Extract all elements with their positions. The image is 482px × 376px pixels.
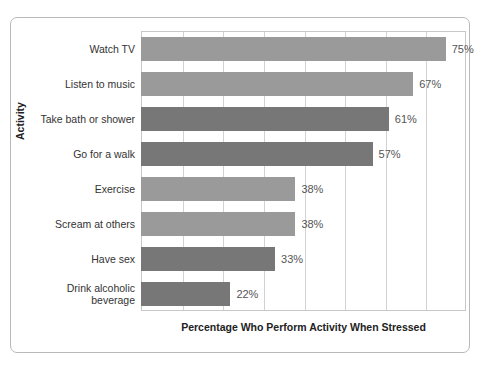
bars-container: 75%67%61%57%38%38%33%22% <box>141 31 466 311</box>
bar-value-label: 38% <box>295 212 323 236</box>
category-label: Go for a walk <box>30 148 135 160</box>
bar-row: 33% <box>141 241 466 276</box>
bar-value-label: 61% <box>389 107 417 131</box>
bar-value-label: 75% <box>446 37 474 61</box>
bar-value-label: 57% <box>373 142 401 166</box>
y-axis-title: Activity <box>14 102 26 140</box>
x-axis-title: Percentage Who Perform Activity When Str… <box>141 321 466 333</box>
bar-scream-at-others <box>141 212 295 236</box>
figure-page: 75%67%61%57%38%38%33%22% Watch TVListen … <box>0 0 482 376</box>
category-label: Listen to music <box>30 78 135 90</box>
bar-row: 22% <box>141 276 466 311</box>
bar-row: 38% <box>141 171 466 206</box>
category-labels: Watch TVListen to musicTake bath or show… <box>30 31 135 311</box>
category-label: Watch TV <box>30 43 135 55</box>
bar-row: 38% <box>141 206 466 241</box>
bar-row: 75% <box>141 31 466 66</box>
bar-value-label: 67% <box>413 72 441 96</box>
bar-watch-tv <box>141 37 446 61</box>
bar-have-sex <box>141 247 275 271</box>
category-label: Scream at others <box>30 218 135 230</box>
bar-row: 57% <box>141 136 466 171</box>
category-label: Take bath or shower <box>30 113 135 125</box>
bar-chart: 75%67%61%57%38%38%33%22% Watch TVListen … <box>0 0 482 376</box>
bar-listen-to-music <box>141 72 413 96</box>
bar-exercise <box>141 177 295 201</box>
category-label: Drink alcoholic beverage <box>30 282 135 306</box>
bar-value-label: 33% <box>275 247 303 271</box>
category-label: Have sex <box>30 253 135 265</box>
bar-value-label: 22% <box>230 282 258 306</box>
bar-take-bath-or-shower <box>141 107 389 131</box>
category-label: Exercise <box>30 183 135 195</box>
bar-row: 61% <box>141 101 466 136</box>
bar-row: 67% <box>141 66 466 101</box>
bar-drink-alcoholic-beverage <box>141 282 230 306</box>
bar-value-label: 38% <box>295 177 323 201</box>
bar-go-for-a-walk <box>141 142 373 166</box>
